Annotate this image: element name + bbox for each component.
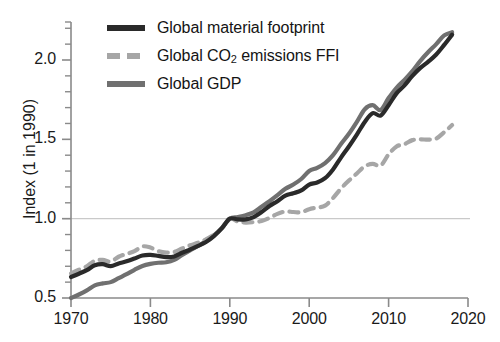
y-tick-label: 0.5: [10, 288, 56, 306]
legend-label-suffix: emissions FFI: [237, 47, 340, 64]
x-tick-label: 2020: [433, 310, 500, 328]
x-tick-label: 2000: [274, 310, 344, 328]
legend-item-co2-emissions[interactable]: Global CO2 emissions FFI: [106, 42, 339, 70]
x-tick-label: 1970: [36, 310, 106, 328]
legend-label-text: Global GDP: [157, 75, 241, 92]
chart-legend: Global material footprintGlobal CO2 emis…: [106, 14, 339, 98]
legend-item-material-footprint[interactable]: Global material footprint: [106, 14, 339, 42]
legend-label-co2-emissions: Global CO2 emissions FFI: [157, 47, 339, 65]
legend-swatch-material-footprint: [106, 20, 146, 36]
x-tick-label: 1990: [195, 310, 265, 328]
legend-label-gdp: Global GDP: [157, 75, 241, 93]
legend-label-material-footprint: Global material footprint: [157, 19, 324, 37]
legend-item-gdp[interactable]: Global GDP: [106, 70, 339, 98]
y-axis-title: Index (1 in 1990): [21, 59, 39, 259]
series-line-co2-emissions: [71, 125, 452, 273]
legend-swatch-gdp: [106, 76, 146, 92]
y-tick-label: 2.0: [10, 50, 56, 68]
x-tick-label: 1980: [115, 310, 185, 328]
legend-label-text: Global CO: [157, 47, 231, 64]
y-tick-label: 1.5: [10, 129, 56, 147]
chart-container: Index (1 in 1990) 0.51.01.52.0 197019801…: [0, 0, 500, 342]
y-tick-label: 1.0: [10, 209, 56, 227]
legend-swatch-co2-emissions: [106, 48, 146, 64]
x-tick-label: 2010: [354, 310, 424, 328]
legend-label-text: Global material footprint: [157, 19, 324, 36]
